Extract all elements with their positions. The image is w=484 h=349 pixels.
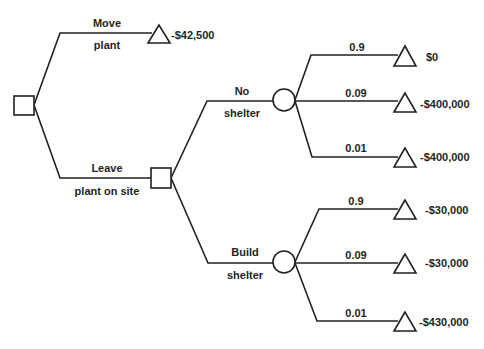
no-shelter-label-top: No	[235, 85, 250, 97]
leave-decision-square-icon	[151, 168, 171, 188]
no-shelter-payoff-1: $0	[426, 51, 438, 63]
no-shelter-probability-3: 0.01	[345, 142, 366, 154]
move-plant-label-top: Move	[93, 17, 121, 29]
no-shelter-payoff-2: -$400,000	[420, 98, 470, 110]
build-shelter-label-top: Build	[231, 246, 259, 258]
build-shelter-probability-3: 0.01	[345, 307, 366, 319]
leave-plant-label-top: Leave	[91, 162, 122, 174]
no-shelter-chance-circle-icon	[273, 89, 295, 111]
no-shelter-probability-1: 0.9	[349, 41, 364, 53]
no-shelter-terminal-1-triangle-icon	[394, 46, 416, 66]
build-shelter-probability-1: 0.9	[348, 195, 363, 207]
move-plant-payoff: -$42,500	[171, 29, 214, 41]
no-shelter-terminal-2-triangle-icon	[394, 93, 416, 112]
no-shelter-probability-2: 0.09	[345, 87, 366, 99]
leave-plant-label-bottom: plant on site	[75, 185, 140, 197]
no-shelter-label-bottom: shelter	[224, 107, 260, 119]
build-shelter-probability-2: 0.09	[345, 249, 366, 261]
root-decision-square-icon	[14, 96, 34, 115]
build-shelter-chance-circle-icon	[273, 251, 295, 273]
move-plant-label-bottom: plant	[94, 39, 120, 51]
decision-tree-diagram	[0, 0, 484, 349]
no-shelter-payoff-3: -$400,000	[420, 151, 470, 163]
build-shelter-payoff-3: -$430,000	[419, 316, 469, 328]
build-shelter-label-bottom: shelter	[227, 269, 263, 281]
build-shelter-payoff-1: -$30,000	[425, 204, 468, 216]
move-plant-terminal-triangle-icon	[148, 25, 170, 43]
build-shelter-payoff-2: -$30,000	[425, 257, 468, 269]
